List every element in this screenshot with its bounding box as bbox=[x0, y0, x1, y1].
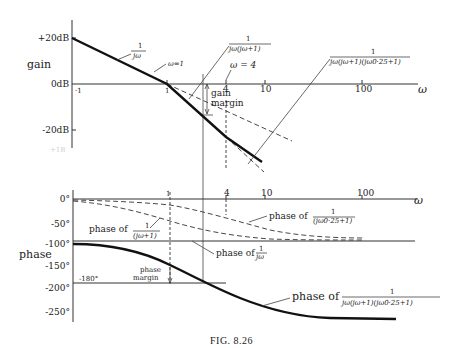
phase-x-axis-label: ω bbox=[414, 194, 423, 207]
gain-tick-plus20: +20dB bbox=[38, 33, 70, 43]
gain-tick-0: 0dB bbox=[51, 79, 69, 89]
phase-tick-250: -250° bbox=[45, 307, 70, 317]
phase-margin-label-2: margin bbox=[133, 274, 159, 282]
gain-xtick-0.1: ·1 bbox=[75, 87, 82, 95]
label-1-over-jw: jω bbox=[131, 52, 141, 60]
label-w-eq-1: ω=1 bbox=[168, 60, 184, 68]
svg-text:1: 1 bbox=[390, 288, 394, 296]
svg-text:1: 1 bbox=[145, 222, 149, 230]
svg-text:phase of: phase of bbox=[292, 290, 340, 303]
pencil-mark: +1B bbox=[50, 146, 65, 154]
svg-text:phase of: phase of bbox=[89, 224, 128, 234]
phase-xtick-10: 10 bbox=[261, 188, 273, 198]
phase-tick-0: 0° bbox=[60, 194, 70, 204]
gain-xtick-100: 100 bbox=[355, 84, 372, 94]
phase-xtick-100: 100 bbox=[357, 188, 374, 198]
svg-text:1: 1 bbox=[331, 208, 335, 216]
label-full-tf: jω(jω+1)(jω0·25+1) bbox=[328, 58, 401, 66]
svg-text:1: 1 bbox=[259, 245, 263, 253]
svg-text:(jω+1): (jω+1) bbox=[133, 232, 157, 240]
svg-text:phase of: phase of bbox=[216, 248, 255, 258]
minus-180-label: -180° bbox=[79, 275, 98, 283]
svg-text:1: 1 bbox=[138, 42, 142, 50]
phase-margin-label-1: phase bbox=[140, 266, 161, 274]
phase-xtick-4: 4 bbox=[224, 188, 230, 198]
svg-text:1: 1 bbox=[371, 48, 375, 56]
gain-margin-label-2: margin bbox=[211, 98, 244, 108]
svg-text:(jω0·25+1): (jω0·25+1) bbox=[313, 217, 353, 225]
gain-xtick-1: 1 bbox=[165, 87, 169, 95]
phase-tick-200: -200° bbox=[45, 283, 70, 293]
phase-tick-50: -50° bbox=[51, 219, 70, 229]
gain-x-axis-label: ω bbox=[418, 83, 427, 96]
gain-axis-label: gain bbox=[27, 58, 51, 71]
label-phase-jw1: phase of 1 (jω+1) bbox=[89, 218, 160, 240]
label-jw-jw1: jω(jω+1) bbox=[227, 45, 261, 53]
gain-tick-minus20: -20dB bbox=[42, 125, 69, 135]
figure-caption: FIG. 8.26 bbox=[210, 335, 253, 346]
phase-plot: 1 4 10 100 ω 0° -50° -100° -150° -200° -… bbox=[19, 188, 440, 322]
gain-margin-label-1: gain bbox=[211, 88, 231, 98]
bode-plot-diagram: +20dB 0dB -20dB gain ·1 1 4 10 100 ω gai… bbox=[0, 0, 456, 348]
svg-text:phase of: phase of bbox=[269, 211, 308, 221]
label-phase-full: phase of 1 jω(jω+1)(jω0·25+1) bbox=[262, 288, 440, 307]
svg-text:jω(jω+1)(jω0·25+1): jω(jω+1)(jω0·25+1) bbox=[340, 299, 413, 307]
gain-xtick-10: 10 bbox=[260, 84, 272, 94]
gain-plot: +20dB 0dB -20dB gain ·1 1 4 10 100 ω gai… bbox=[27, 20, 427, 282]
svg-text:1: 1 bbox=[246, 35, 250, 43]
label-w-eq-4: ω = 4 bbox=[230, 60, 257, 70]
phase-tick-150: -150° bbox=[45, 261, 70, 271]
phase-axis-label: phase bbox=[19, 248, 52, 261]
svg-text:jω: jω bbox=[254, 253, 264, 261]
label-phase-jw025: phase of 1 (jω0·25+1) bbox=[249, 208, 355, 225]
